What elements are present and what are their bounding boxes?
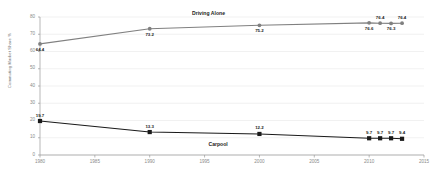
data-point-label: 64.4 — [32, 47, 48, 52]
data-point-label: 9.4 — [394, 130, 410, 135]
series-label: Driving Alone — [192, 10, 225, 16]
data-point-label: 12.2 — [251, 125, 267, 130]
data-point-label: 76.3 — [383, 26, 399, 31]
data-point-label: 76.4 — [372, 15, 388, 20]
data-point-label: 76.6 — [361, 26, 377, 31]
data-point-label: 75.2 — [251, 28, 267, 33]
series-label: Carpool — [209, 141, 228, 147]
data-point-label: 19.7 — [32, 113, 48, 118]
data-point-label: 73.2 — [142, 32, 158, 37]
chart-container: Commuting Market Share % 010203040506070… — [0, 0, 434, 182]
data-point-label: 13.3 — [142, 124, 158, 129]
data-point-label: 76.4 — [394, 15, 410, 20]
